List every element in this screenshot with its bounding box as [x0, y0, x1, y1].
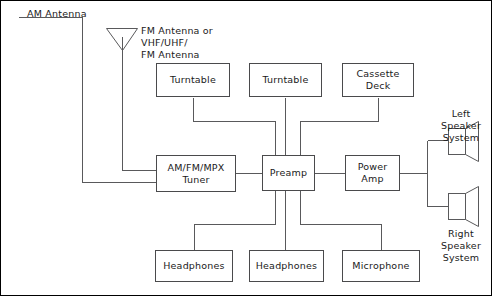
box-turntable-2[interactable]: Turntable — [249, 63, 322, 97]
right-speaker-icon-body — [449, 194, 466, 220]
wire-poweramp-speaker-bus — [400, 141, 448, 207]
fm-antenna-label: FM Antenna or VHF/UHF/ FM Antenna — [141, 25, 213, 61]
audio-system-diagram: AM Antenna FM Antenna or VHF/UHF/ FM Ant… — [0, 0, 492, 296]
wire-cassette-preamp — [301, 98, 379, 156]
wire-turntable1-preamp — [194, 98, 276, 156]
right-speaker-icon-cone — [466, 187, 479, 227]
am-antenna-label: AM Antenna — [27, 8, 87, 20]
box-headphones-2[interactable]: Headphones — [249, 250, 324, 282]
box-power-amp[interactable]: Power Amp — [345, 155, 400, 191]
left-speaker-label: Left Speaker System — [433, 108, 489, 144]
box-turntable-1[interactable]: Turntable — [156, 63, 230, 97]
wire-preamp-microphone — [301, 191, 382, 250]
wire-preamp-headphones1 — [195, 191, 276, 250]
box-cassette-deck[interactable]: Cassette Deck — [342, 63, 414, 97]
box-tuner[interactable]: AM/FM/MPX Tuner — [156, 155, 236, 192]
am-antenna-wire — [19, 18, 157, 183]
box-preamp[interactable]: Preamp — [262, 155, 315, 191]
right-speaker-label: Right Speaker System — [433, 228, 489, 264]
box-microphone[interactable]: Microphone — [342, 250, 420, 282]
box-headphones-1[interactable]: Headphones — [155, 250, 233, 282]
